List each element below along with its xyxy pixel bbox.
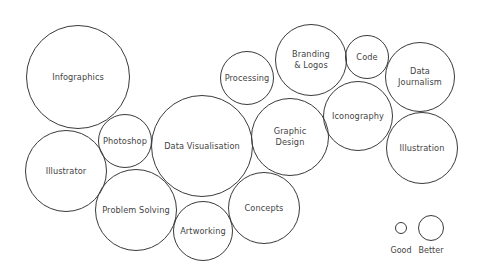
bubble-label: Processing	[225, 73, 270, 84]
bubble-concepts: Concepts	[228, 172, 300, 244]
bubble-label: Code	[356, 52, 377, 63]
bubble-label: Illustrator	[46, 166, 87, 177]
bubble-label: Artworking	[180, 226, 226, 237]
bubble-code: Code	[345, 35, 389, 79]
bubble-label: Illustration	[400, 143, 445, 154]
bubble-label: Branding & Logos	[292, 49, 330, 71]
bubble-label: Data Journalism	[398, 66, 442, 88]
bubble-illustration: Illustration	[386, 112, 458, 184]
bubble-label: Photoshop	[103, 136, 147, 147]
bubble-label: Iconography	[332, 111, 384, 122]
bubble-photoshop: Photoshop	[98, 114, 152, 168]
bubble-infographics: Infographics	[26, 25, 130, 129]
legend-label-good: Good	[390, 246, 411, 255]
bubble-branding-logos: Branding & Logos	[275, 24, 347, 96]
bubble-processing: Processing	[220, 51, 274, 105]
legend-label-better: Better	[419, 246, 444, 255]
bubble-data-journalism: Data Journalism	[385, 42, 455, 112]
bubble-label: Graphic Design	[274, 126, 307, 148]
skills-bubble-diagram: Infographics Processing Branding & Logos…	[0, 0, 488, 279]
bubble-label: Data Visualisation	[164, 141, 240, 152]
bubble-illustrator: Illustrator	[25, 130, 107, 212]
bubble-problem-solving: Problem Solving	[95, 169, 177, 251]
legend-circle-better	[418, 215, 444, 241]
bubble-iconography: Iconography	[323, 81, 393, 151]
bubble-label: Infographics	[52, 72, 104, 83]
bubble-artworking: Artworking	[173, 201, 233, 261]
bubble-graphic-design: Graphic Design	[251, 98, 329, 176]
bubble-label: Problem Solving	[102, 205, 170, 216]
legend-circle-good	[395, 222, 407, 234]
bubble-label: Concepts	[245, 203, 284, 214]
